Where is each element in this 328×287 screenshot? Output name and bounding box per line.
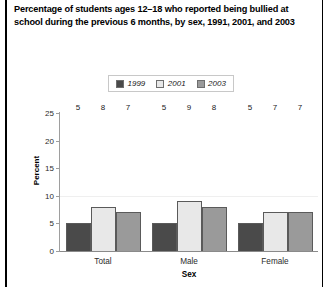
bar-value-label: 7 [126,103,130,112]
bar-rect[interactable]: 8 [202,207,227,251]
chart-title: Percentage of students ages 12–18 who re… [14,3,314,29]
legend-swatch-2003 [197,80,205,88]
bar-male-2003[interactable]: 8 [202,113,227,251]
x-tick-label-total: Total [60,257,146,266]
bar-rect[interactable]: 7 [263,212,288,251]
bar-value-label: 5 [76,103,80,112]
bars: 598 [146,113,232,251]
legend-label-1999: 1999 [128,79,146,88]
bar-group-total: 587Total [60,113,146,251]
bars: 577 [232,113,318,251]
legend-item-2001: 2001 [156,79,185,88]
y-axis-label: Percent [32,156,41,185]
bar-rect[interactable]: 7 [288,212,313,251]
y-tick-label: 5 [50,219,54,228]
bar-total-2003[interactable]: 7 [116,113,141,251]
y-tick-label: 25 [45,109,54,118]
y-tick-label: 0 [50,247,54,256]
bar-female-2001[interactable]: 7 [263,113,288,251]
x-axis-label: Sex [60,270,318,279]
bar-value-label: 7 [298,103,302,112]
legend-swatch-1999 [116,80,124,88]
x-tick-label-male: Male [146,257,232,266]
legend-label-2003: 2003 [208,79,226,88]
y-tick-mark [56,251,60,252]
bar-rect[interactable]: 5 [152,223,177,251]
x-tick-label-female: Female [232,257,318,266]
bar-value-label: 8 [212,103,216,112]
bar-rect[interactable]: 8 [91,207,116,251]
bar-groups: 587Total598Male577Female [60,113,318,251]
bar-group-male: 598Male [146,113,232,251]
bar-female-2003[interactable]: 7 [288,113,313,251]
bar-male-2001[interactable]: 9 [177,113,202,251]
frame-rule-left [5,0,7,287]
bar-value-label: 9 [187,103,191,112]
bar-total-2001[interactable]: 8 [91,113,116,251]
bar-value-label: 5 [248,103,252,112]
bars: 587 [60,113,146,251]
plot-area: 0510152025 587Total598Male577Female [60,113,318,251]
bar-value-label: 7 [273,103,277,112]
x-axis-baseline [59,251,318,252]
y-tick-label: 20 [45,136,54,145]
bar-female-1999[interactable]: 5 [238,113,263,251]
bar-rect[interactable]: 7 [116,212,141,251]
legend-label-2001: 2001 [168,79,186,88]
y-tick-label: 15 [45,164,54,173]
bar-value-label: 5 [162,103,166,112]
legend-item-2003: 2003 [197,79,226,88]
frame-rule-right [322,0,324,287]
bar-value-label: 8 [101,103,105,112]
legend-swatch-2001 [156,80,164,88]
bar-rect[interactable]: 5 [238,223,263,251]
bar-rect[interactable]: 9 [177,201,202,251]
bar-male-1999[interactable]: 5 [152,113,177,251]
legend-item-1999: 1999 [116,79,145,88]
y-tick-label: 10 [45,191,54,200]
chart-legend: 1999 2001 2003 [108,75,234,92]
bar-total-1999[interactable]: 5 [66,113,91,251]
bar-rect[interactable]: 5 [66,223,91,251]
bar-group-female: 577Female [232,113,318,251]
figure-panel: Percentage of students ages 12–18 who re… [0,0,328,287]
